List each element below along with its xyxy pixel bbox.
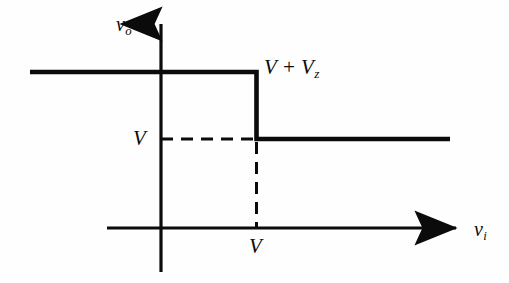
y-axis-label-subscript: o (125, 24, 131, 38)
upper-level-label-subscript: z (314, 66, 319, 81)
transfer-characteristic-curve (30, 72, 450, 139)
x-axis-label-text: v (474, 218, 483, 240)
y-axis-label: vo (116, 14, 131, 34)
x-axis-label: vi (474, 219, 486, 239)
threshold-label: V (249, 236, 262, 257)
x-axis-label-subscript: i (483, 229, 487, 243)
upper-level-label-text: V + V (264, 55, 314, 79)
upper-level-label: V + Vz (264, 57, 319, 78)
y-axis-label-text: v (116, 13, 125, 35)
lower-level-label: V (133, 128, 146, 149)
transfer-characteristic-figure: vo vi V + Vz V V (0, 0, 509, 283)
